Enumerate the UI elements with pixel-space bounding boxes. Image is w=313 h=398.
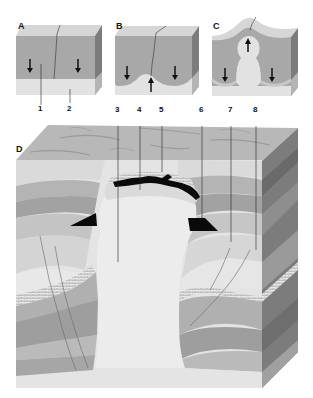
panel-label-c: C <box>213 22 220 31</box>
callout-3: 3 <box>115 106 119 114</box>
callout-5: 5 <box>159 106 163 114</box>
panel-b-block <box>115 26 199 95</box>
panel-c-block <box>212 17 298 96</box>
callout-7: 7 <box>228 106 232 114</box>
panel-label-d: D <box>16 145 23 154</box>
callout-8: 8 <box>253 106 257 114</box>
callout-2: 2 <box>67 105 71 113</box>
panel-label-a: A <box>18 22 25 31</box>
panel-a-block <box>16 25 102 105</box>
callout-4: 4 <box>137 106 141 114</box>
callout-1: 1 <box>38 105 42 113</box>
callout-6: 6 <box>199 106 203 114</box>
salt-dome-diagram <box>0 0 313 398</box>
panel-label-b: B <box>116 22 123 31</box>
panel-d-block <box>16 125 298 388</box>
